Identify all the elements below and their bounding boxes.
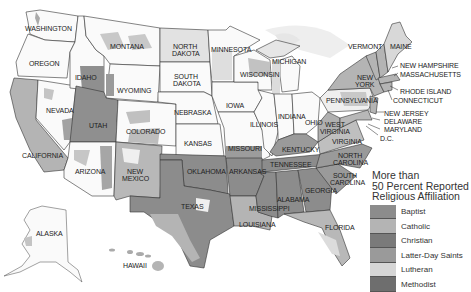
legend-label: Catholic xyxy=(401,222,430,231)
label-mississippi: MISSISSIPPI xyxy=(249,205,290,212)
state-wyoming xyxy=(106,64,160,102)
map-legend: More than 50 Percent Reported Religious … xyxy=(370,170,471,292)
swatch-christian xyxy=(370,234,396,249)
label-new-jersey: NEW JERSEY xyxy=(384,110,429,117)
swatch-methodist xyxy=(370,277,396,292)
label-arkansas: ARKANSAS xyxy=(229,168,266,175)
label-alabama: ALABAMA xyxy=(277,196,309,203)
label-new-mexico-2: MEXICO xyxy=(122,175,149,182)
label-west-virginia-2: VIRGINIA xyxy=(320,128,350,135)
label-wisconsin: WISCONSIN xyxy=(240,71,280,78)
label-iowa: IOWA xyxy=(226,102,244,109)
label-north-dakota-1: NORTH xyxy=(173,43,197,50)
label-west-virginia-1: WEST xyxy=(325,121,345,128)
label-wyoming: WYOMING xyxy=(117,87,151,94)
label-oregon: OREGON xyxy=(29,60,60,67)
label-north-dakota-2: DAKOTA xyxy=(172,50,200,57)
label-massachusetts: MASSACHUSETTS xyxy=(400,71,461,78)
legend-title: More than 50 Percent Reported Religious … xyxy=(372,170,471,202)
swatch-catholic xyxy=(370,219,396,234)
label-idaho: IDAHO xyxy=(75,74,97,81)
label-ohio: OHIO xyxy=(305,119,323,126)
label-florida: FLORIDA xyxy=(325,224,355,231)
swatch-latter-day-saints xyxy=(370,248,396,263)
label-michigan: MICHIGAN xyxy=(272,58,306,65)
label-virginia: VIRGINIA xyxy=(332,138,362,145)
label-rhode-island: RHODE ISLAND xyxy=(400,88,451,95)
legend-label: Baptist xyxy=(401,207,425,216)
label-georgia: GEORGIA xyxy=(305,187,337,194)
label-north-carolina-2: CAROLINA xyxy=(333,159,368,166)
label-hawaii: HAWAII xyxy=(123,262,147,269)
label-illinois: ILLINOIS xyxy=(250,121,278,128)
label-utah: UTAH xyxy=(89,122,107,129)
legend-item-baptist: Baptist xyxy=(370,205,471,220)
legend-item-lutheran: Lutheran xyxy=(370,263,471,278)
label-oklahoma: OKLAHOMA xyxy=(187,168,226,175)
label-maine: MAINE xyxy=(390,43,412,50)
label-nevada: NEVADA xyxy=(46,107,74,114)
label-kansas: KANSAS xyxy=(184,140,212,147)
label-washington: WASHINGTON xyxy=(25,25,72,32)
label-alaska: ALASKA xyxy=(36,230,63,237)
legend-label: Lutheran xyxy=(401,265,433,274)
label-minnesota: MINNESOTA xyxy=(211,46,251,53)
label-colorado: COLORADO xyxy=(126,128,165,135)
label-indiana: INDIANA xyxy=(278,113,306,120)
label-pennsylvania: PENNSYLVANIA xyxy=(326,97,377,104)
label-new-hampshire: NEW HAMPSHIRE xyxy=(400,62,459,69)
label-tennessee: TENNESSEE xyxy=(270,161,312,168)
legend-title-line-3: Religious Affiliation xyxy=(372,191,471,202)
label-missouri: MISSOURI xyxy=(228,145,262,152)
legend-label: Methodist xyxy=(401,280,436,289)
legend-item-latter-day-saints: Latter-Day Saints xyxy=(370,248,471,263)
label-south-dakota-2: DAKOTA xyxy=(173,80,201,87)
label-nebraska: NEBRASKA xyxy=(174,109,211,116)
legend-label: Christian xyxy=(401,236,433,245)
label-south-carolina-1: SOUTH xyxy=(333,172,357,179)
label-new-mexico-1: NEW xyxy=(127,168,143,175)
label-montana: MONTANA xyxy=(110,43,144,50)
legend-label: Latter-Day Saints xyxy=(401,251,463,260)
label-south-dakota-1: SOUTH xyxy=(174,73,198,80)
swatch-baptist xyxy=(370,205,396,220)
label-dc: D.C. xyxy=(380,135,394,142)
label-maryland: MARYLAND xyxy=(384,126,422,133)
label-north-carolina-1: NORTH xyxy=(338,152,362,159)
label-california: CALIFORNIA xyxy=(22,152,63,159)
label-south-carolina-2: CAROLINA xyxy=(330,179,365,186)
label-arizona: ARIZONA xyxy=(75,168,105,175)
label-vermont: VERMONT xyxy=(348,43,382,50)
swatch-lutheran xyxy=(370,263,396,278)
legend-item-catholic: Catholic xyxy=(370,219,471,234)
legend-title-line-1: More than xyxy=(372,170,471,181)
label-new-york-1: NEW xyxy=(357,74,373,81)
label-connecticut: CONNECTICUT xyxy=(393,97,443,104)
label-delaware: DELAWARE xyxy=(384,118,422,125)
label-kentucky: KENTUCKY xyxy=(282,146,319,153)
legend-item-christian: Christian xyxy=(370,234,471,249)
label-texas: TEXAS xyxy=(181,203,203,210)
label-new-york-2: YORK xyxy=(355,81,374,88)
legend-item-methodist: Methodist xyxy=(370,277,471,292)
label-louisiana: LOUISIANA xyxy=(239,221,275,228)
